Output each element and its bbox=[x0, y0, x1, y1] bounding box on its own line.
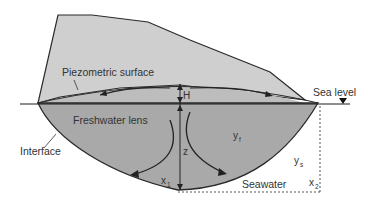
label-H: H bbox=[183, 90, 190, 101]
label-x1-sub: 1 bbox=[167, 181, 171, 188]
label-piezometric-surface: Piezometric surface bbox=[62, 66, 154, 78]
label-x2-sub: 2 bbox=[315, 183, 319, 190]
label-ys: y bbox=[294, 155, 299, 166]
label-x2: x bbox=[309, 177, 314, 188]
label-x1: x bbox=[161, 175, 166, 186]
label-yf: y bbox=[233, 130, 238, 141]
freshwater-lens-diagram: Piezometric surface Sea level Freshwater… bbox=[0, 0, 375, 205]
label-freshwater-lens: Freshwater lens bbox=[73, 114, 148, 126]
label-yf-sub: f bbox=[239, 136, 241, 143]
label-interface: Interface bbox=[20, 145, 61, 157]
label-z: z bbox=[183, 146, 188, 157]
label-ys-sub: s bbox=[300, 161, 304, 168]
label-sea-level: Sea level bbox=[313, 86, 356, 98]
label-seawater: Seawater bbox=[242, 178, 287, 190]
sea-level-marker-icon bbox=[339, 98, 347, 104]
